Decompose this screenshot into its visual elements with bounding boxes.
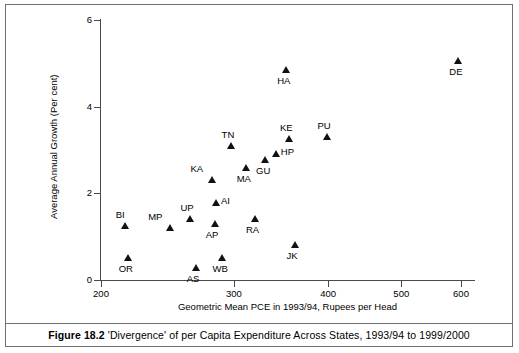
point-label-mp: MP (148, 212, 162, 222)
y-tick-label-4: 4 (80, 102, 92, 112)
triangle-marker-icon (285, 135, 293, 142)
y-axis-title: Average Annual Growth (Per cent) (49, 52, 59, 242)
point-label-hp: HP (281, 147, 294, 157)
triangle-marker-icon (192, 264, 200, 271)
point-label-gu: GU (256, 166, 270, 176)
triangle-marker-icon (291, 241, 299, 248)
figure-caption: Figure 18.2 'Divergence' of per Capita E… (48, 330, 470, 341)
point-label-or: OR (119, 264, 133, 274)
point-label-ra: RA (246, 225, 259, 235)
triangle-marker-icon (211, 220, 219, 227)
triangle-marker-icon (272, 150, 280, 157)
point-label-pu: PU (318, 121, 331, 131)
triangle-marker-icon (218, 254, 226, 261)
point-label-ka: KA (190, 164, 203, 174)
point-label-ma: MA (237, 174, 251, 184)
y-tick-0 (94, 280, 100, 281)
x-tick-300 (234, 281, 235, 287)
x-tick-label-300: 300 (226, 289, 242, 299)
triangle-marker-icon (242, 164, 250, 171)
triangle-marker-icon (208, 176, 216, 183)
triangle-marker-icon (121, 222, 129, 229)
point-label-jk: JK (286, 251, 297, 261)
point-label-up: UP (181, 203, 194, 213)
triangle-marker-icon (227, 142, 235, 149)
y-tick-6 (94, 20, 100, 21)
point-label-ke: KE (280, 123, 293, 133)
x-tick-600 (461, 281, 462, 287)
x-axis-line (100, 280, 475, 281)
x-tick-label-600: 600 (453, 289, 469, 299)
triangle-marker-icon (323, 133, 331, 140)
figure-number: Figure 18.2 (48, 329, 105, 341)
y-tick-2 (94, 193, 100, 194)
scatter-plot: 200300400500600 0246 BIORMPUPASKAAIAPWBT… (0, 0, 519, 353)
triangle-marker-icon (251, 215, 259, 222)
point-label-ap: AP (206, 230, 219, 240)
x-tick-label-400: 400 (320, 289, 336, 299)
triangle-marker-icon (186, 215, 194, 222)
triangle-marker-icon (282, 66, 290, 73)
point-label-ha: HA (277, 76, 290, 86)
triangle-marker-icon (261, 156, 269, 163)
figure-caption-text: 'Divergence' of per Capita Expenditure A… (108, 329, 470, 341)
point-label-tn: TN (222, 130, 235, 140)
point-label-ai: AI (221, 196, 230, 206)
point-label-bi: BI (116, 210, 125, 220)
figure-caption-bar: Figure 18.2 'Divergence' of per Capita E… (6, 323, 512, 346)
triangle-marker-icon (454, 57, 462, 64)
y-tick-label-2: 2 (80, 189, 92, 199)
triangle-marker-icon (166, 224, 174, 231)
x-tick-label-200: 200 (93, 289, 109, 299)
triangle-marker-icon (212, 199, 220, 206)
y-tick-label-0: 0 (80, 275, 92, 285)
y-axis-line (100, 19, 101, 281)
y-tick-4 (94, 107, 100, 108)
point-label-de: DE (449, 67, 462, 77)
y-tick-label-6: 6 (80, 15, 92, 25)
figure-page: 200300400500600 0246 BIORMPUPASKAAIAPWBT… (0, 0, 519, 353)
triangle-marker-icon (124, 254, 132, 261)
x-tick-label-500: 500 (393, 289, 409, 299)
point-label-as: AS (187, 274, 200, 284)
x-tick-200 (101, 281, 102, 287)
x-axis-title: Geometric Mean PCE in 1993/94, Rupees pe… (100, 302, 475, 312)
x-tick-400 (328, 281, 329, 287)
x-tick-500 (401, 281, 402, 287)
point-label-wb: WB (213, 264, 228, 274)
